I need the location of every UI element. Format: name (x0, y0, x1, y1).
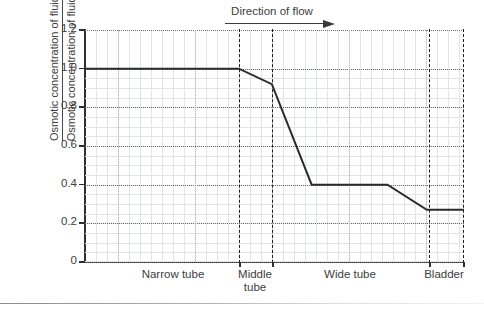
y-tick-mark (79, 261, 84, 263)
x-tick-mark (463, 262, 465, 267)
x-tick-mark (239, 262, 241, 267)
page-divider-rule (0, 303, 484, 304)
x-category-label-wide-tube: Wide tube (290, 268, 410, 281)
flow-annotation: Direction of flow (210, 5, 350, 31)
y-tick-label: 0.4 (61, 178, 77, 189)
arrow-right-icon (225, 20, 337, 30)
y-tick-mark (79, 222, 84, 224)
gridline-major-h (85, 262, 464, 263)
y-tick-mark (79, 106, 84, 108)
x-category-label-middle-tube: Middle tube (220, 268, 290, 294)
y-tick-label: 1.0 (61, 62, 77, 73)
data-series-line (85, 30, 464, 262)
y-tick-label: 0.8 (61, 100, 77, 111)
y-tick-label: 0 (71, 255, 77, 266)
y-tick-mark (79, 184, 84, 186)
y-tick-label: 1.2 (61, 23, 77, 34)
plot-area (85, 30, 464, 262)
y-tick-mark (79, 68, 84, 70)
flow-annotation-label: Direction of flow (210, 5, 334, 18)
x-tick-mark (429, 262, 431, 267)
y-tick-mark (79, 29, 84, 31)
chart-figure: Direction of flow Osmotic concentration … (0, 0, 484, 312)
y-tick-mark (79, 145, 84, 147)
y-tick-label: 0.2 (61, 216, 77, 227)
y-tick-label: 0.6 (61, 139, 77, 150)
x-tick-mark (272, 262, 274, 267)
x-category-label-narrow-tube: Narrow tube (108, 268, 238, 281)
x-category-label-bladder: Bladder (406, 268, 482, 281)
